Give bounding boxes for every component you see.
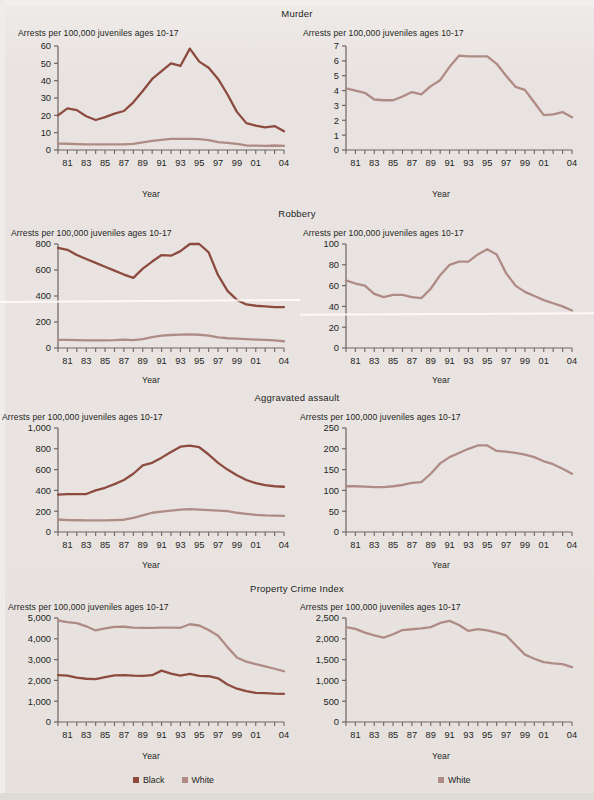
svg-text:40: 40 [41, 76, 51, 86]
svg-text:89: 89 [138, 730, 148, 740]
svg-text:83: 83 [81, 730, 91, 740]
legend-label-white: White [192, 775, 215, 785]
svg-text:83: 83 [81, 356, 91, 366]
svg-text:93: 93 [463, 158, 473, 168]
svg-text:91: 91 [444, 730, 454, 740]
svg-text:85: 85 [388, 540, 398, 550]
svg-text:83: 83 [369, 540, 379, 550]
svg-text:85: 85 [388, 730, 398, 740]
svg-text:100: 100 [323, 486, 339, 496]
svg-text:93: 93 [463, 540, 473, 550]
svg-text:0: 0 [334, 145, 339, 155]
svg-text:1,000: 1,000 [28, 697, 51, 707]
legend-item-white: White [182, 775, 215, 785]
svg-text:89: 89 [138, 540, 148, 550]
svg-text:400: 400 [35, 291, 51, 301]
svg-text:85: 85 [100, 730, 110, 740]
svg-text:20: 20 [41, 111, 51, 121]
svg-text:4,000: 4,000 [28, 634, 51, 644]
svg-text:200: 200 [35, 317, 51, 327]
svg-text:1,000: 1,000 [28, 423, 51, 433]
svg-text:04: 04 [279, 730, 289, 740]
svg-text:0: 0 [334, 717, 339, 727]
svg-text:1: 1 [334, 131, 339, 141]
svg-text:04: 04 [279, 356, 289, 366]
svg-text:40: 40 [329, 302, 339, 312]
svg-text:85: 85 [388, 356, 398, 366]
svg-text:0: 0 [334, 527, 339, 537]
svg-text:81: 81 [62, 356, 72, 366]
svg-text:89: 89 [138, 356, 148, 366]
svg-text:30: 30 [41, 93, 51, 103]
legend-label-white-right: White [448, 775, 471, 785]
svg-text:89: 89 [426, 158, 436, 168]
svg-text:50: 50 [329, 507, 339, 517]
svg-text:0: 0 [46, 145, 51, 155]
svg-text:3,000: 3,000 [28, 655, 51, 665]
legend-left: Black White [133, 775, 226, 785]
legend-swatch-black [133, 777, 139, 783]
svg-text:150: 150 [323, 465, 339, 475]
x-axis-caption-property-left: Year [12, 751, 290, 761]
svg-text:95: 95 [482, 158, 492, 168]
svg-text:7: 7 [334, 41, 339, 51]
svg-text:81: 81 [62, 730, 72, 740]
chart-aggravated-assault-white: 050100150200250818385878991939597990104 [300, 420, 578, 570]
svg-text:600: 600 [35, 265, 51, 275]
svg-text:100: 100 [323, 239, 339, 249]
x-axis-caption-property-right: Year [300, 751, 582, 761]
svg-text:95: 95 [482, 730, 492, 740]
svg-text:83: 83 [369, 356, 379, 366]
svg-text:20: 20 [329, 323, 339, 333]
section-title-aggravated-assault: Aggravated assault [0, 392, 594, 403]
legend-swatch-white [182, 777, 188, 783]
svg-text:5,000: 5,000 [28, 613, 51, 623]
svg-text:97: 97 [213, 540, 223, 550]
svg-text:5: 5 [334, 71, 339, 81]
legend-label-black: Black [143, 775, 165, 785]
svg-text:99: 99 [520, 356, 530, 366]
svg-text:6: 6 [334, 56, 339, 66]
svg-text:01: 01 [251, 540, 261, 550]
svg-text:04: 04 [567, 158, 577, 168]
section-title-murder: Murder [0, 8, 594, 19]
svg-text:80: 80 [329, 260, 339, 270]
svg-text:89: 89 [426, 730, 436, 740]
svg-text:91: 91 [156, 158, 166, 168]
svg-text:800: 800 [35, 444, 51, 454]
svg-text:800: 800 [35, 239, 51, 249]
svg-text:04: 04 [279, 540, 289, 550]
svg-text:91: 91 [444, 158, 454, 168]
chart-aggravated-assault-black-white: 02004006008001,0008183858789919395979901… [12, 420, 290, 570]
svg-text:95: 95 [194, 540, 204, 550]
svg-text:4: 4 [334, 86, 339, 96]
svg-text:93: 93 [175, 540, 185, 550]
x-axis-caption-assault-right: Year [300, 560, 582, 570]
svg-text:2,000: 2,000 [316, 634, 339, 644]
svg-text:97: 97 [501, 158, 511, 168]
svg-text:01: 01 [251, 730, 261, 740]
svg-text:95: 95 [194, 356, 204, 366]
svg-text:81: 81 [350, 158, 360, 168]
svg-text:99: 99 [520, 158, 530, 168]
svg-text:89: 89 [426, 356, 436, 366]
svg-text:97: 97 [501, 540, 511, 550]
svg-text:99: 99 [232, 158, 242, 168]
x-axis-caption-murder-left: Year [12, 189, 290, 199]
svg-text:600: 600 [35, 465, 51, 475]
svg-text:01: 01 [539, 540, 549, 550]
svg-text:95: 95 [482, 356, 492, 366]
svg-text:87: 87 [119, 158, 129, 168]
svg-text:87: 87 [119, 730, 129, 740]
y-axis-caption-murder-right: Arrests per 100,000 juveniles ages 10-17 [303, 28, 464, 38]
svg-text:97: 97 [213, 356, 223, 366]
svg-text:87: 87 [407, 730, 417, 740]
svg-text:04: 04 [567, 730, 577, 740]
x-axis-caption-robbery-left: Year [12, 375, 290, 385]
svg-text:01: 01 [539, 730, 549, 740]
svg-text:0: 0 [46, 343, 51, 353]
svg-text:95: 95 [194, 730, 204, 740]
svg-text:0: 0 [46, 717, 51, 727]
x-axis-caption-robbery-right: Year [300, 375, 582, 385]
legend-swatch-white-right [438, 777, 444, 783]
